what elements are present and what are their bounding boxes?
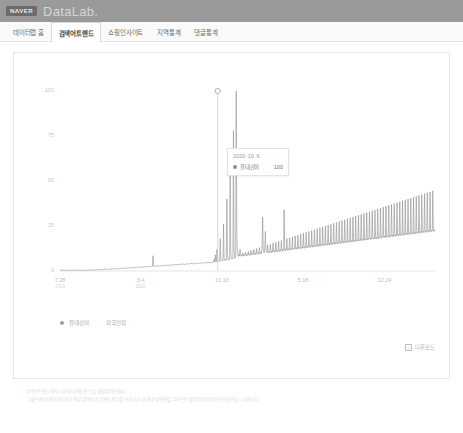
legend-item-0[interactable]: 유대감이 [69, 319, 89, 327]
footer-note-text-1: 그래프에서 데이터에 대한 해당 검색어가 검색된 횟수를 조회기간 내 최대 … [26, 396, 259, 404]
trend-result-card: 1007550250 7.2820193.4202010.105.1812.24… [13, 52, 450, 379]
tooltip-series-row: 유대감이 100 [233, 163, 283, 171]
x-tick-year: 2020 [136, 284, 146, 289]
footer-note-0: · 검색어트렌드에서 기간과 지역조건 등을 재설정해보세요. [22, 388, 442, 396]
y-tick-label: 75 [36, 132, 54, 138]
tab-shopping-insight[interactable]: 쇼핑인사이트 [101, 22, 150, 41]
x-tick-year: 2019 [55, 284, 66, 289]
download-button[interactable]: ↓ 다운로드 [405, 343, 435, 351]
tooltip-series-dot [233, 165, 237, 169]
x-tick-label: 12.24 [377, 277, 391, 283]
x-tick-label: 10.10 [215, 277, 229, 283]
tab-search-trend[interactable]: 검색어트렌드 [51, 22, 102, 42]
x-tick-label: 3.42020 [136, 277, 146, 289]
global-nav-bar: NAVER DataLab. [0, 0, 463, 22]
footer-note-text-0: 검색어트렌드에서 기간과 지역조건 등을 재설정해보세요. [26, 388, 125, 396]
x-tick-label: 7.282019 [55, 277, 66, 289]
tab-region-stats[interactable]: 지역통계 [150, 22, 187, 41]
tab-datalab-home[interactable]: 데이터랩 홈 [6, 22, 51, 41]
datalab-page: NAVER DataLab. 데이터랩 홈 검색어트렌드 쇼핑인사이트 지역통계… [0, 0, 463, 433]
tooltip-series-value: 100 [274, 164, 283, 170]
chart-tooltip: 2020. 10. 6. 유대감이 100 [227, 148, 289, 176]
trend-chart[interactable]: 1007550250 7.2820193.4202010.105.1812.24 [14, 53, 451, 313]
legend-item-1[interactable]: 외국인의 [106, 319, 126, 327]
tooltip-series-name: 유대감이 [240, 163, 271, 171]
legend-dot-icon [60, 321, 64, 325]
datalab-wordmark: DataLab. [43, 4, 98, 19]
y-tick-label: 100 [36, 87, 54, 93]
download-icon: ↓ [405, 344, 412, 351]
x-tick-label: 5.18 [298, 277, 309, 283]
main-tab-bar: 데이터랩 홈 검색어트렌드 쇼핑인사이트 지역통계 댓글통계 [0, 22, 463, 42]
y-tick-label: 50 [36, 177, 54, 183]
naver-logo: NAVER [6, 6, 37, 16]
tab-comment-stats[interactable]: 댓글통계 [187, 22, 224, 41]
bullet-icon: · [22, 396, 23, 404]
trend-chart-canvas [14, 53, 451, 313]
footer-notes: · 검색어트렌드에서 기간과 지역조건 등을 재설정해보세요. · 그래프에서 … [22, 388, 442, 404]
y-tick-label: 25 [36, 222, 54, 228]
y-tick-label: 0 [36, 267, 54, 273]
download-label: 다운로드 [415, 343, 435, 351]
tooltip-date: 2020. 10. 6. [233, 153, 283, 159]
footer-note-1: · 그래프에서 데이터에 대한 해당 검색어가 검색된 횟수를 조회기간 내 최… [22, 396, 442, 404]
bullet-icon: · [22, 388, 23, 396]
chart-legend: 유대감이 외국인의 [60, 319, 126, 327]
